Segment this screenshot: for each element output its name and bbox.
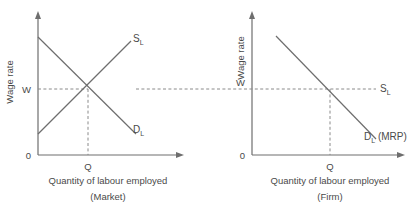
market-supply-curve — [38, 41, 131, 134]
firm-x-axis-label: Quantity of labour employed — [271, 175, 390, 186]
firm-y-axis-label: Wage rate — [235, 36, 246, 79]
firm-x-axis-arrowhead — [397, 152, 405, 158]
chart-market: Wage rate 0 W Q SL DL Quantity of labour… — [4, 11, 184, 202]
market-y-axis-label: Wage rate — [4, 60, 15, 103]
firm-origin-label: 0 — [240, 150, 245, 161]
firm-y-axis-arrowhead — [249, 11, 255, 19]
firm-demand-label-main: D — [364, 131, 371, 142]
economics-figure: Wage rate 0 W Q SL DL Quantity of labour… — [0, 0, 418, 205]
firm-quantity-tick-label: Q — [326, 161, 333, 172]
market-supply-label-sub: L — [140, 39, 144, 46]
market-wage-tick-label: W — [22, 84, 31, 95]
firm-wage-tick-label: W — [236, 77, 245, 88]
market-caption: (Market) — [90, 191, 125, 202]
market-y-axis-arrowhead — [35, 11, 41, 19]
market-demand-label-main: D — [133, 124, 140, 135]
market-x-axis-label: Quantity of labour employed — [49, 175, 168, 186]
firm-supply-curve-label: SL — [380, 83, 391, 96]
market-quantity-tick-label: Q — [84, 161, 91, 172]
firm-supply-label-sub: L — [387, 89, 391, 96]
firm-caption: (Firm) — [317, 191, 342, 202]
firm-demand-mrp-curve — [276, 36, 376, 139]
market-demand-curve-label: DL — [133, 124, 144, 137]
market-origin-label: 0 — [26, 150, 31, 161]
chart-firm: Wage rate 0 W Q SL DL (MRP) Quantity of … — [136, 11, 407, 202]
firm-demand-curve-label: DL (MRP) — [364, 131, 407, 144]
market-supply-curve-label: SL — [133, 33, 144, 46]
market-x-axis-arrowhead — [176, 152, 184, 158]
market-demand-label-sub: L — [140, 130, 144, 137]
firm-demand-label-suffix: (MRP) — [375, 131, 407, 142]
